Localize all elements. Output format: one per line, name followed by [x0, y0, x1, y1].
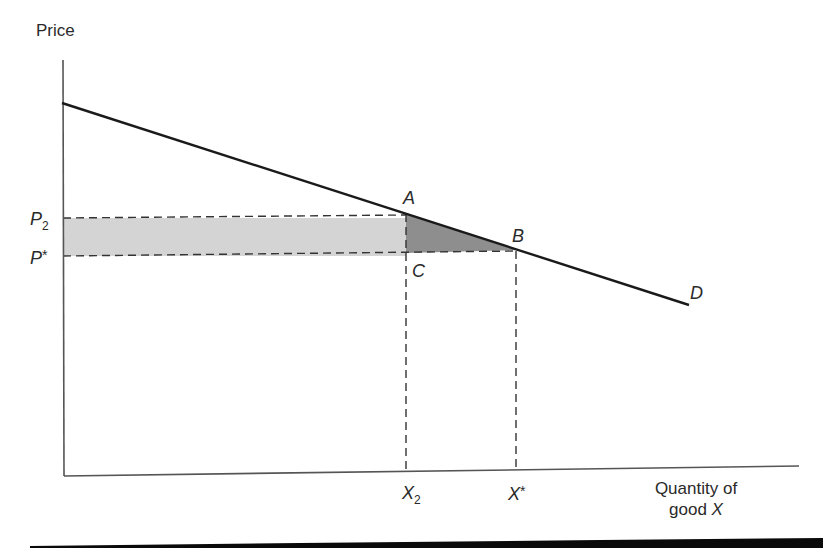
- xstar-tick-label: X*: [508, 484, 525, 503]
- p2-dashed-line: [63, 215, 406, 218]
- x2-tick-label: X2: [402, 484, 421, 506]
- price-axis-label: Price: [36, 22, 75, 39]
- p2-tick-label: P2: [30, 210, 49, 232]
- pstar-tick-label: P*: [30, 248, 47, 267]
- point-a-label: A: [403, 189, 415, 207]
- point-c-label: C: [412, 262, 425, 280]
- y-axis: [63, 60, 64, 476]
- quantity-axis-label-line2: good X: [636, 499, 756, 520]
- demand-curve: [62, 103, 689, 305]
- quantity-axis-label-line1: Quantity of: [636, 478, 756, 499]
- x-axis: [64, 466, 799, 476]
- consumer-transfer-rectangle: [63, 218, 406, 256]
- point-b-label: B: [512, 227, 524, 245]
- scan-edge-bar: [30, 538, 823, 548]
- demand-curve-label: D: [690, 284, 703, 302]
- quantity-axis-label: Quantity of good X: [636, 478, 756, 520]
